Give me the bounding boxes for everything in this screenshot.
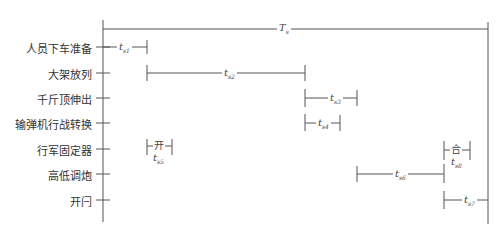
- interval-label-ts4: ts4: [316, 118, 331, 132]
- total-time-label: Ts: [277, 23, 291, 37]
- row-label-trail-deploy: 大架放列: [0, 66, 92, 82]
- row-label-elevation: 高低调炮: [0, 167, 92, 183]
- interval-label-ts5: ts5: [151, 153, 166, 167]
- interval-label-ts3: ts3: [328, 93, 343, 107]
- row-label-rammer-switch: 输弹机行战转换: [0, 116, 92, 132]
- interval-label-ts7: ts7: [462, 195, 477, 209]
- interval-label-ts2: ts2: [222, 68, 237, 82]
- state-close-label: 合: [450, 145, 462, 155]
- row-label-jack-extend: 千斤顶伸出: [0, 91, 92, 107]
- row-label-personnel-prep: 人员下车准备: [0, 40, 92, 56]
- timing-diagram: 人员下车准备 大架放列 千斤顶伸出 输弹机行战转换 行军固定器 高低调炮 开闩 …: [0, 0, 504, 236]
- interval-label-ts1: ts1: [117, 42, 132, 56]
- interval-label-ts6: ts6: [393, 169, 408, 183]
- row-label-travel-lock: 行军固定器: [0, 142, 92, 158]
- state-open-label: 开: [153, 141, 165, 151]
- interval-label-ts8: ts8: [449, 157, 464, 171]
- row-label-breech-open: 开闩: [0, 193, 92, 209]
